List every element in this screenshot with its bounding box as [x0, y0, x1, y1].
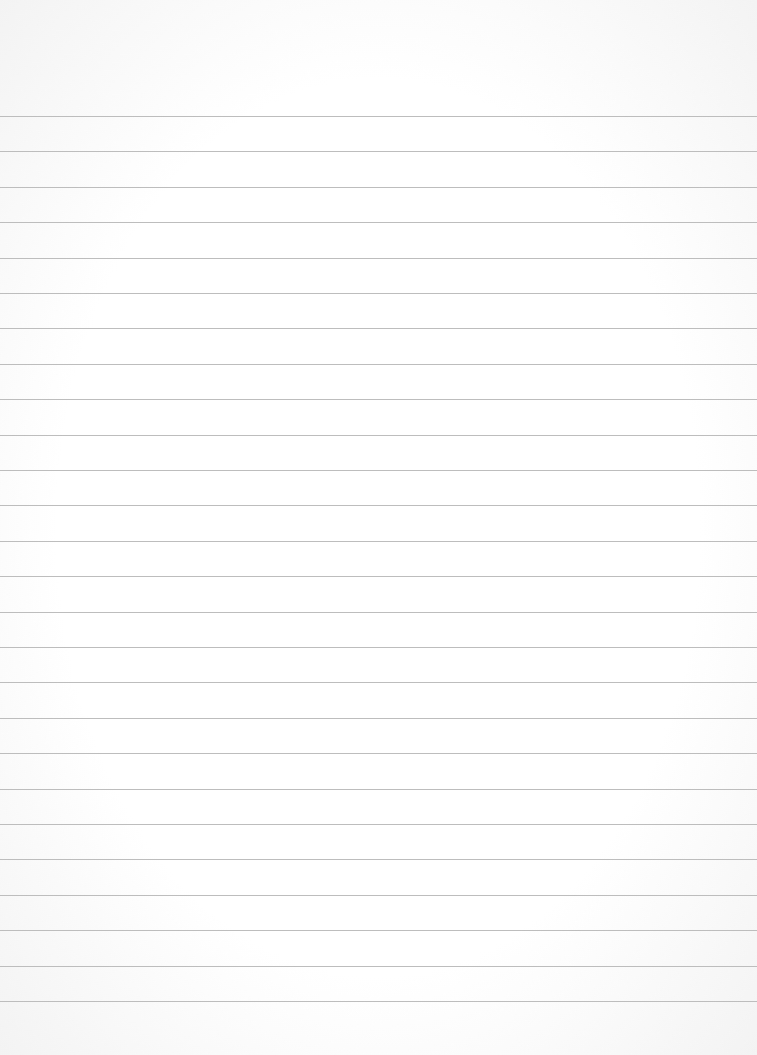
- ruled-line: [0, 364, 757, 365]
- ruled-line: [0, 859, 757, 860]
- ruled-line: [0, 293, 757, 294]
- ruled-line: [0, 151, 757, 152]
- ruled-line: [0, 930, 757, 931]
- ruled-line: [0, 399, 757, 400]
- ruled-line: [0, 682, 757, 683]
- ruled-line: [0, 328, 757, 329]
- ruled-line: [0, 612, 757, 613]
- ruled-line: [0, 187, 757, 188]
- ruled-line: [0, 470, 757, 471]
- ruled-line: [0, 718, 757, 719]
- lined-paper: [0, 0, 757, 1055]
- ruled-line: [0, 576, 757, 577]
- ruled-line: [0, 966, 757, 967]
- ruled-line: [0, 789, 757, 790]
- ruled-line: [0, 258, 757, 259]
- ruled-line: [0, 222, 757, 223]
- ruled-line: [0, 753, 757, 754]
- ruled-line: [0, 1001, 757, 1002]
- ruled-line: [0, 116, 757, 117]
- ruled-line: [0, 895, 757, 896]
- ruled-line: [0, 505, 757, 506]
- ruled-line: [0, 541, 757, 542]
- ruled-line: [0, 647, 757, 648]
- ruled-line: [0, 824, 757, 825]
- ruled-line: [0, 435, 757, 436]
